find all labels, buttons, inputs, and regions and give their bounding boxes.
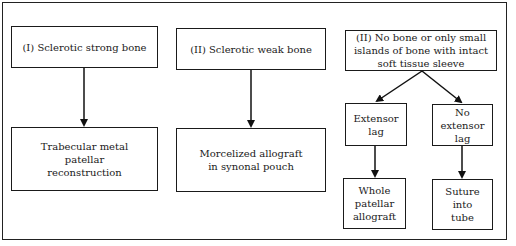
node-label: Extensor lag bbox=[348, 112, 404, 138]
node-trabecular-metal: Trabecular metal patellar reconstruction bbox=[11, 127, 158, 191]
node-label: Whole patellar allograft bbox=[352, 184, 397, 223]
node-label: (II) No bone or only small islands of bo… bbox=[352, 31, 490, 70]
node-extensor-lag: Extensor lag bbox=[345, 103, 407, 146]
node-label: Morcelized allograft in synonal pouch bbox=[199, 147, 303, 173]
node-sclerotic-weak-bone: (II) Sclerotic weak bone bbox=[176, 28, 326, 70]
node-whole-patellar-allograft: Whole patellar allograft bbox=[343, 178, 406, 229]
node-morcelized-allograft: Morcelized allograft in synonal pouch bbox=[176, 128, 326, 192]
arrow-type3-to-no-extensor-lag bbox=[422, 71, 461, 102]
node-label: (I) Sclerotic strong bone bbox=[22, 41, 146, 54]
node-no-extensor-lag: No extensor lag bbox=[432, 104, 493, 146]
node-no-bone-soft-tissue-sleeve: (II) No bone or only small islands of bo… bbox=[345, 30, 497, 71]
node-suture-into-tube: Suture into tube bbox=[432, 179, 493, 230]
node-label: No extensor lag bbox=[435, 106, 490, 145]
arrow-type3-to-extensor-lag bbox=[377, 71, 422, 101]
node-label: (II) Sclerotic weak bone bbox=[190, 43, 312, 56]
node-label: Trabecular metal patellar reconstruction bbox=[26, 140, 143, 179]
node-sclerotic-strong-bone: (I) Sclerotic strong bone bbox=[11, 26, 158, 68]
node-label: Suture into tube bbox=[445, 185, 479, 224]
